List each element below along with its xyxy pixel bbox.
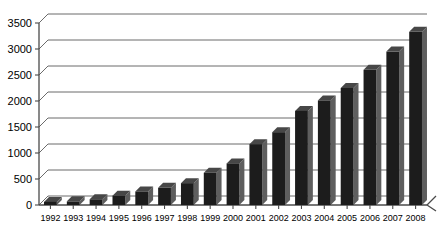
x-axis-tick-label: 1999 <box>200 213 220 223</box>
axis-depth-wedge <box>427 196 436 211</box>
x-axis-tick-label: 2003 <box>291 213 311 223</box>
y-axis-tick-label: 3000 <box>8 43 32 55</box>
y-axis-tick-label: 1500 <box>8 121 32 133</box>
bar-side-face <box>285 127 290 205</box>
bar-front-face <box>90 199 103 205</box>
bar-1995 <box>112 191 130 205</box>
bar-side-face <box>354 83 359 205</box>
x-axis-tick-label: 1993 <box>63 213 83 223</box>
bar-side-face <box>239 158 244 205</box>
x-axis-tick-label: 2001 <box>246 213 266 223</box>
x-axis-tick-label: 2005 <box>337 213 357 223</box>
bar-chart: 0500100015002000250030003500 19921993199… <box>0 0 439 239</box>
x-axis-tick-label: 2006 <box>360 213 380 223</box>
x-axis-labels-group: 1992199319941995199619971998199920002001… <box>40 213 425 223</box>
x-axis-tick-label: 1995 <box>109 213 129 223</box>
x-axis-tick-label: 1994 <box>86 213 106 223</box>
bar-2002 <box>272 127 290 205</box>
bar-side-face <box>308 106 313 205</box>
x-axis-tick-label: 1996 <box>132 213 152 223</box>
bar-front-face <box>227 163 240 205</box>
bar-2005 <box>341 83 359 205</box>
y-axis-tick-label: 3500 <box>8 17 32 29</box>
bar-side-face <box>262 139 267 205</box>
bar-front-face <box>67 201 80 205</box>
bar-front-face <box>44 202 57 205</box>
bar-1996 <box>135 186 153 205</box>
bar-front-face <box>364 70 377 205</box>
y-axis-tick-label: 500 <box>14 173 32 185</box>
bar-1998 <box>181 178 199 205</box>
bar-front-face <box>341 88 354 205</box>
bar-front-face <box>204 173 217 205</box>
bar-front-face <box>158 188 171 205</box>
bar-side-face <box>217 168 222 205</box>
bar-2000 <box>227 158 245 205</box>
bar-1993 <box>67 196 85 205</box>
bar-front-face <box>249 144 262 205</box>
bar-1997 <box>158 183 176 205</box>
x-axis-tick-label: 2004 <box>314 213 334 223</box>
bar-2007 <box>386 47 404 205</box>
chart-canvas: 0500100015002000250030003500 19921993199… <box>0 0 439 239</box>
bar-front-face <box>386 52 399 205</box>
x-axis-tick-label: 2008 <box>406 213 426 223</box>
y-axis-tick-label: 0 <box>26 199 32 211</box>
bar-side-face <box>331 95 336 205</box>
bar-side-face <box>422 27 427 205</box>
bar-front-face <box>181 183 194 205</box>
bar-front-face <box>272 132 285 205</box>
y-axis-tick-label: 2500 <box>8 69 32 81</box>
y-axis-tick-label: 2000 <box>8 95 32 107</box>
gridline <box>39 14 427 23</box>
bar-2008 <box>409 27 427 205</box>
bars-group <box>44 27 427 205</box>
bar-front-face <box>112 196 125 205</box>
bar-side-face <box>376 65 381 205</box>
bar-1992 <box>44 197 62 205</box>
x-axis-tick-label: 1998 <box>177 213 197 223</box>
bar-2006 <box>364 65 382 205</box>
y-axis-labels-group: 0500100015002000250030003500 <box>8 17 32 211</box>
bar-front-face <box>409 32 422 205</box>
gridline <box>39 40 427 49</box>
x-axis-tick-label: 1997 <box>155 213 175 223</box>
bar-front-face <box>295 111 308 205</box>
bar-2004 <box>318 95 336 205</box>
x-axis-tick-label: 1992 <box>40 213 60 223</box>
bar-2001 <box>249 139 267 205</box>
x-axis-tick-label: 2002 <box>269 213 289 223</box>
bar-1999 <box>204 168 222 205</box>
bar-2003 <box>295 106 313 205</box>
y-axis-tick-label: 1000 <box>8 147 32 159</box>
x-axis-tick-label: 2007 <box>383 213 403 223</box>
x-axis-tick-label: 2000 <box>223 213 243 223</box>
bar-front-face <box>318 100 331 205</box>
bar-front-face <box>135 191 148 205</box>
bar-side-face <box>399 47 404 205</box>
